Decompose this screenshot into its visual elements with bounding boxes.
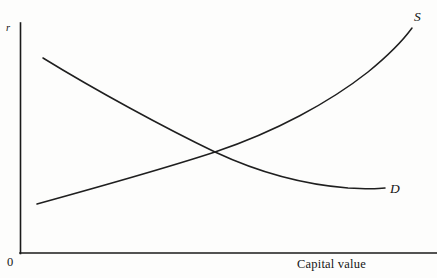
x-axis-label: Capital value [297, 258, 366, 271]
origin-label: 0 [7, 256, 13, 269]
demand-curve-label: D [390, 182, 400, 196]
supply-curve [37, 28, 412, 204]
supply-curve-label: S [414, 10, 421, 24]
supply-demand-figure: r 0 Capital value S D [0, 0, 437, 278]
plot-area [0, 0, 437, 278]
demand-curve [43, 58, 385, 189]
y-axis-label: r [6, 23, 10, 34]
